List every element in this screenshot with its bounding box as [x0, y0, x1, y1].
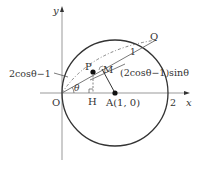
label-H: H	[88, 96, 97, 107]
label-2cos-minus-1: 2cosθ−1	[9, 68, 51, 79]
x-axis-label: x	[186, 97, 192, 108]
x-axis-arrow-icon	[184, 91, 190, 95]
label-product: (2cosθ−1)sinθ	[120, 67, 189, 78]
origin-label: O	[52, 97, 60, 108]
label-radius-1: 1	[130, 47, 136, 57]
point-A	[112, 90, 117, 95]
x-tick-2: 2	[170, 97, 176, 108]
right-angle-mark	[89, 89, 93, 93]
label-theta: θ	[74, 83, 80, 93]
geometry-diagram: y x O 2 P Q M H A(1, 0) 2cosθ−1 (2cosθ−1…	[0, 0, 201, 169]
label-A: A(1, 0)	[105, 97, 140, 108]
label-P: P	[85, 61, 92, 72]
y-axis-label: y	[52, 5, 59, 16]
y-axis-arrow-icon	[60, 6, 64, 12]
label-M: M	[103, 64, 113, 75]
label-Q: Q	[150, 31, 158, 42]
